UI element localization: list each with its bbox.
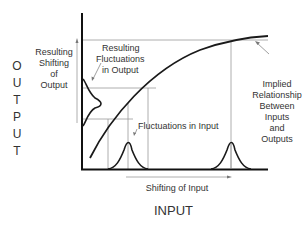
shift-output-arrowhead [76,38,79,43]
y-axis-title-letter: T [10,92,24,109]
label-line: Fluctuations [96,54,156,65]
label-line: Relationship [246,90,308,101]
y-axis-title-letter: U [10,75,24,92]
label-line: Between [246,101,308,112]
label-line: Implied [246,79,308,90]
y-axis-title-letter: O [10,58,24,75]
label-line: Outputs [246,134,308,145]
y-axis-title: O U T P U T [10,58,24,160]
label-line: Shifting [33,58,75,69]
y-axis-title-letter: P [10,109,24,126]
y-axis-title-letter: T [10,143,24,160]
y-axis-title-letter: U [10,126,24,143]
label-line: Inputs [246,112,308,123]
label-resulting-fluctuations-in-output: Resulting Fluctuations in Output [96,43,156,76]
label-fluctuations-in-input: Fluctuations in Input [138,121,238,132]
label-shifting-of-input: Shifting of Input [122,183,232,194]
shift-input-arrowhead [227,176,232,179]
label-resulting-shifting-of-output: Resulting Shifting of Output [33,47,75,91]
label-line: Resulting [96,43,156,54]
relationship-pointer-head [255,41,260,45]
label-line: Output [33,80,75,91]
label-line: in Output [96,65,156,76]
label-implied-relationship: Implied Relationship Between Inputs and … [246,79,308,145]
label-line: Resulting [33,47,75,58]
x-axis-title: INPUT [154,203,193,218]
label-line: and [246,123,308,134]
label-line: of [33,69,75,80]
axes [81,13,268,170]
